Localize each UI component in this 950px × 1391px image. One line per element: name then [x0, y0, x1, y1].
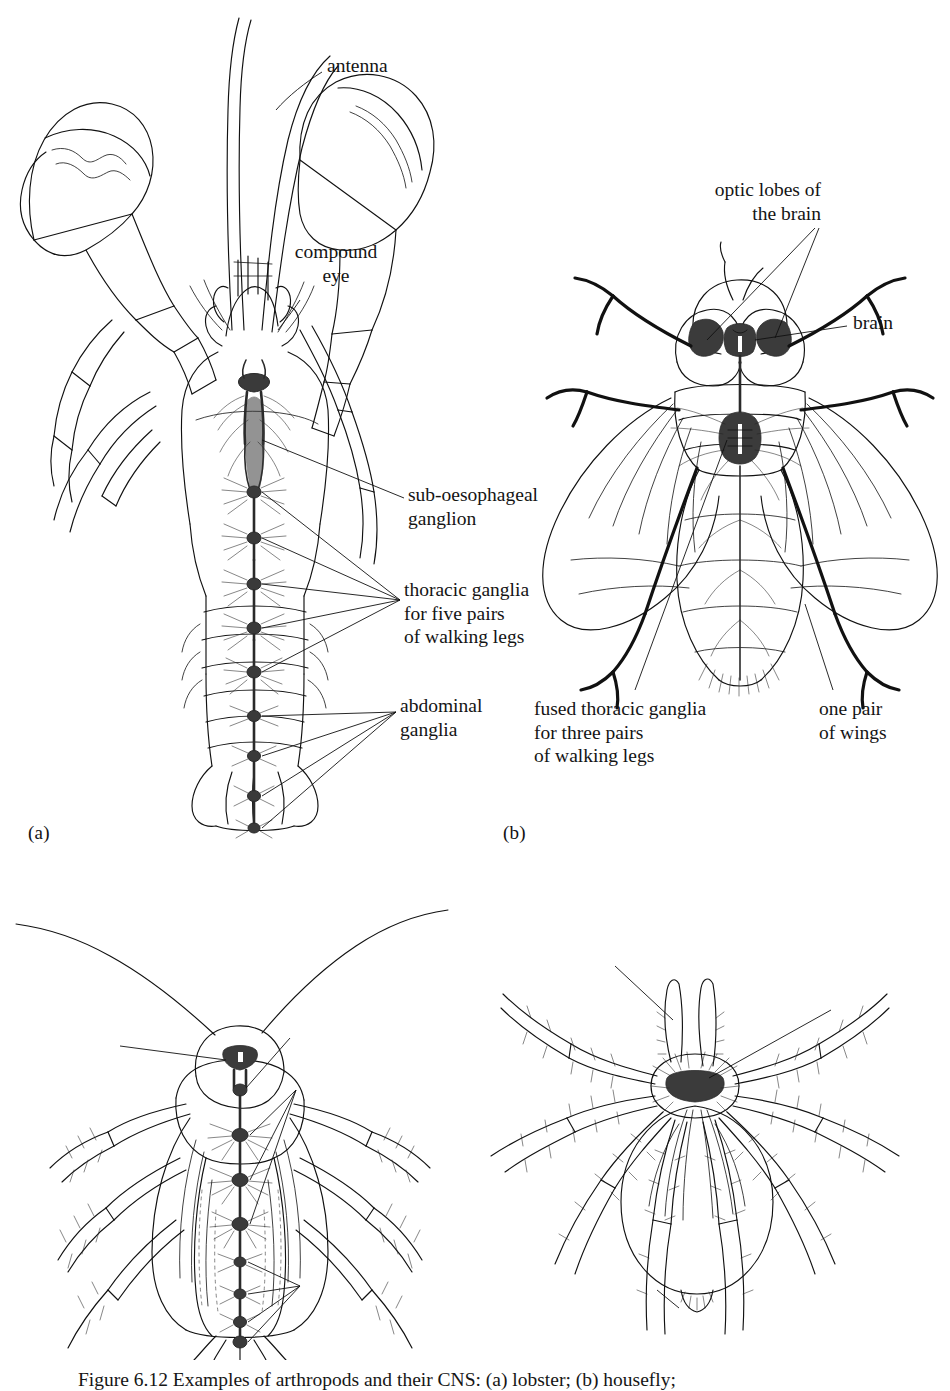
label-brain-b: brain	[853, 311, 893, 335]
label-compound-eye: compound eye	[281, 240, 391, 287]
label-one-pair-of-wings: one pair of wings	[819, 697, 929, 744]
panel-letter-b: (b)	[503, 822, 526, 844]
label-fused-thoracic-ganglia: fused thoracic ganglia for three pairs o…	[534, 697, 754, 768]
cockroach-drawing	[0, 890, 475, 1360]
figure-root: antenna compound eye sub-oesophageal gan…	[0, 0, 950, 1391]
panel-letter-a: (a)	[28, 822, 50, 844]
panel-c-cockroach: brain sub-oesophageal ganglion thoracic …	[0, 890, 475, 1360]
spider-drawing	[475, 890, 950, 1360]
leader-lines-a	[262, 72, 404, 828]
panel-d-spider: chelicera (with poison gland) simple eye…	[475, 890, 950, 1360]
panel-a-lobster: antenna compound eye sub-oesophageal gan…	[0, 0, 475, 870]
figure-caption: Figure 6.12 Examples of arthropods and t…	[78, 1368, 944, 1391]
panel-b-housefly: optic lobes of the brain brain fused tho…	[475, 0, 950, 870]
label-antenna: antenna	[327, 54, 388, 78]
label-optic-lobes: optic lobes of the brain	[673, 178, 821, 225]
